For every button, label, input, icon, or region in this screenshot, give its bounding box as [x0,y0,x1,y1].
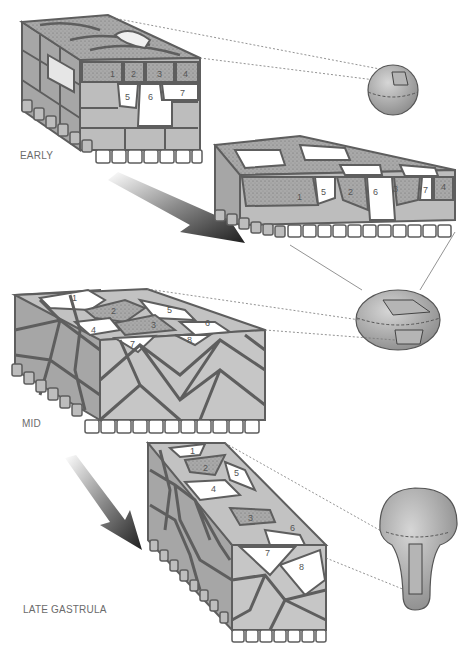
svg-text:5: 5 [167,305,172,315]
svg-text:2: 2 [203,463,208,473]
svg-text:4: 4 [91,325,96,335]
mid-block: 1 2 3 4 5 6 7 8 [12,289,265,433]
svg-text:6: 6 [148,92,153,102]
sphere-embryo-icon [368,65,418,115]
svg-text:1: 1 [297,192,302,202]
early-block: 1 2 3 4 5 6 7 [22,15,202,163]
svg-text:6: 6 [373,187,378,197]
mushroom-embryo-icon [380,488,457,610]
svg-text:1: 1 [72,293,77,303]
early-block-2: 1 5 2 6 3 7 4 [215,136,455,237]
svg-text:7: 7 [423,185,428,195]
svg-text:7: 7 [180,88,185,98]
svg-text:6: 6 [205,318,210,328]
progression-arrow-mid-to-late [65,455,142,550]
svg-text:3: 3 [157,69,162,79]
stage-label-late-gastrula: LATE GASTRULA [23,604,107,615]
svg-text:6: 6 [290,523,295,533]
svg-text:5: 5 [321,187,326,197]
svg-text:5: 5 [234,468,239,478]
svg-text:8: 8 [299,562,304,572]
late-block: 1 2 3 4 5 6 7 8 [148,443,326,642]
svg-text:2: 2 [111,306,116,316]
svg-text:3: 3 [248,513,253,523]
svg-text:4: 4 [441,182,446,192]
svg-text:3: 3 [393,184,398,194]
svg-text:7: 7 [265,548,270,558]
svg-text:2: 2 [131,69,136,79]
svg-text:1: 1 [190,446,195,456]
gastrulation-diagram: 1 2 3 4 5 6 7 [0,0,473,660]
stage-label-early: EARLY [20,150,53,161]
svg-text:4: 4 [183,69,188,79]
svg-text:2: 2 [348,187,353,197]
svg-text:3: 3 [151,320,156,330]
svg-text:1: 1 [110,69,115,79]
svg-text:7: 7 [130,339,135,349]
svg-text:8: 8 [187,335,192,345]
oval-embryo-icon [356,290,440,350]
svg-text:5: 5 [125,92,130,102]
stage-label-mid: MID [22,418,41,429]
svg-text:4: 4 [211,484,216,494]
